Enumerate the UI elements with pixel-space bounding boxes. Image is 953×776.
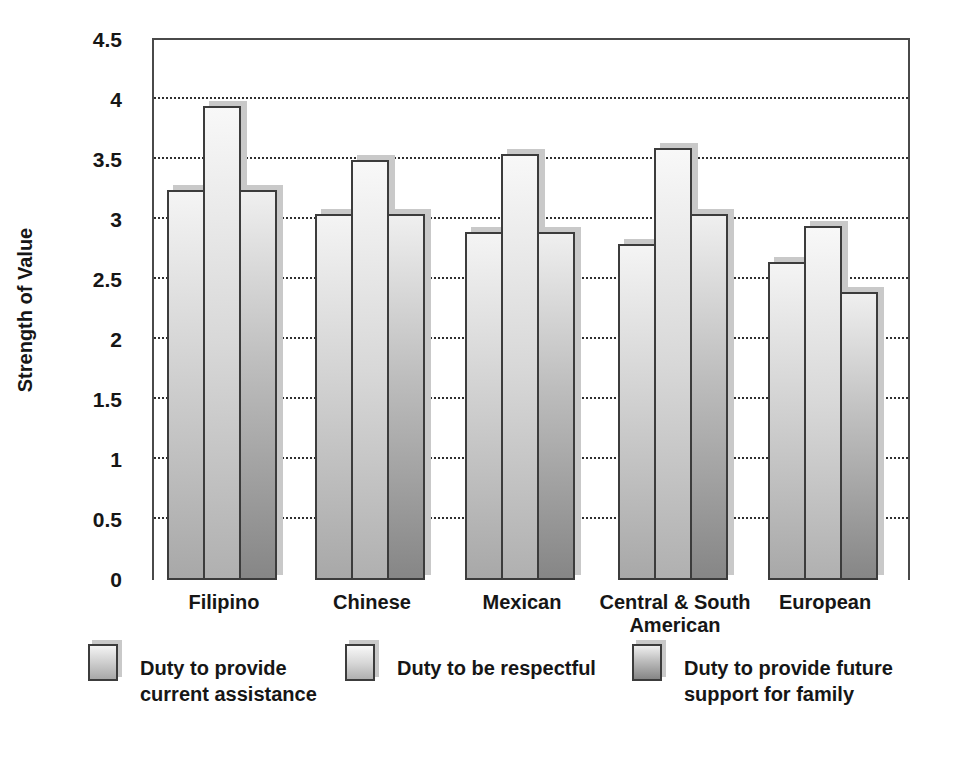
- bar-series3-filipino: [239, 190, 277, 580]
- bar-series1-central-south-american: [618, 244, 656, 580]
- legend-item: Duty to provide current assistance: [88, 644, 352, 707]
- bar-series3-chinese: [387, 214, 425, 580]
- bar-series3-mexican: [537, 232, 575, 580]
- legend-label: Duty to provide future support for famil…: [684, 655, 932, 707]
- y-axis-title: Strength of Value: [14, 228, 37, 392]
- y-tick-label: 1: [28, 447, 122, 473]
- bar-series2-central-south-american: [654, 148, 692, 580]
- bar-series1-filipino: [167, 190, 205, 580]
- bar-series1-mexican: [465, 232, 503, 580]
- bar-series2-mexican: [501, 154, 539, 580]
- legend-item: Duty to provide future support for famil…: [632, 644, 932, 707]
- legend-swatch-icon: [632, 644, 662, 681]
- y-tick-label: 0: [28, 567, 122, 593]
- legend-label: Duty to be respectful: [397, 655, 596, 681]
- y-tick-label: 2: [28, 327, 122, 353]
- bar-group: [167, 106, 277, 580]
- y-tick-label: 2.5: [28, 267, 122, 293]
- bar-series3-central-south-american: [690, 214, 728, 580]
- legend-label: Duty to provide current assistance: [140, 655, 352, 707]
- y-tick-label: 3.5: [28, 147, 122, 173]
- bar-group: [315, 160, 425, 580]
- bar-group: [618, 148, 728, 580]
- bar-series2-european: [804, 226, 842, 580]
- plot-area: [152, 38, 910, 580]
- bar-group: [768, 226, 878, 580]
- gridline: [154, 97, 908, 99]
- bar-series1-european: [768, 262, 806, 580]
- bar-series2-filipino: [203, 106, 241, 580]
- bar-group: [465, 154, 575, 580]
- bar-series1-chinese: [315, 214, 353, 580]
- legend-swatch-icon: [88, 644, 118, 681]
- bar-series3-european: [840, 292, 878, 580]
- bar-series2-chinese: [351, 160, 389, 580]
- legend-item: Duty to be respectful: [345, 644, 596, 681]
- bar-chart-figure: Strength of Value 00.511.522.533.544.5 F…: [0, 0, 953, 776]
- legend-swatch-icon: [345, 644, 375, 681]
- y-tick-label: 4: [28, 87, 122, 113]
- y-tick-label: 1.5: [28, 387, 122, 413]
- y-tick-label: 4.5: [28, 27, 122, 53]
- y-tick-label: 0.5: [28, 507, 122, 533]
- x-category-label: European: [735, 591, 915, 614]
- legend: Duty to provide current assistanceDuty t…: [0, 644, 953, 724]
- y-tick-label: 3: [28, 207, 122, 233]
